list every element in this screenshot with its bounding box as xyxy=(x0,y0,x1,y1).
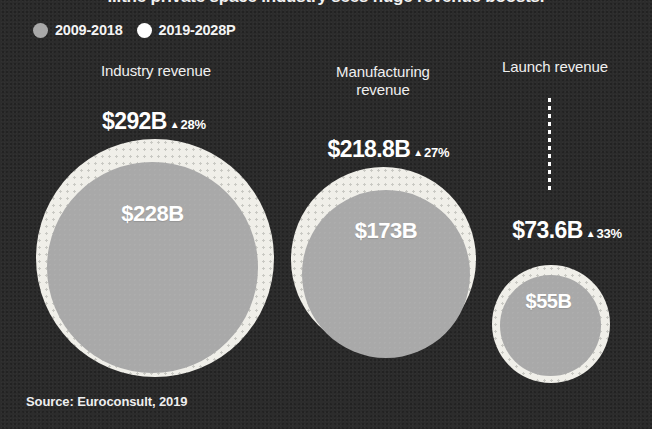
outer-amount: $292B xyxy=(102,108,167,134)
legend-item-2009-2018[interactable]: 2009-2018 xyxy=(33,22,123,38)
inner-circle-industry-revenue xyxy=(47,162,258,373)
source-attribution: Source: Euroconsult, 2019 xyxy=(26,394,188,409)
growth-value: 28% xyxy=(181,117,206,132)
outer-amount: $218.8B xyxy=(328,136,411,162)
dotted-leader-line xyxy=(548,98,551,191)
legend-item-2019-2028p[interactable]: 2019-2028P xyxy=(137,22,236,38)
growth-value: 33% xyxy=(596,226,621,241)
inner-value-manufacturing-revenue: $173B xyxy=(302,218,470,244)
group-title-industry-revenue: Industry revenue xyxy=(66,62,246,80)
inner-circle-manufacturing-revenue xyxy=(302,190,470,358)
white-circle-swatch xyxy=(137,23,152,38)
infographic-canvas: ...the private space industry sees huge … xyxy=(0,0,652,429)
inner-value-launch-revenue: $55B xyxy=(498,290,599,313)
outer-amount: $73.6B xyxy=(512,217,583,243)
group-title-launch-revenue: Launch revenue xyxy=(475,58,635,76)
growth-delta: ▲28% xyxy=(170,117,206,132)
gray-circle-swatch xyxy=(33,23,48,38)
outer-value-launch-revenue: $73.6B▲33% xyxy=(492,217,642,244)
growth-value: 27% xyxy=(424,145,449,160)
legend-label: 2009-2018 xyxy=(55,22,123,38)
triangle-up-icon: ▲ xyxy=(586,228,596,239)
triangle-up-icon: ▲ xyxy=(413,147,423,158)
legend: 2009-2018 2019-2028P xyxy=(33,22,236,38)
outer-value-industry-revenue: $292B▲28% xyxy=(64,108,244,135)
outer-value-manufacturing-revenue: $218.8B▲27% xyxy=(296,136,481,163)
growth-delta: ▲33% xyxy=(586,226,622,241)
inner-value-industry-revenue: $228B xyxy=(47,201,258,227)
growth-delta: ▲27% xyxy=(413,145,449,160)
headline: ...the private space industry sees huge … xyxy=(0,0,652,7)
legend-label: 2019-2028P xyxy=(159,22,236,38)
group-title-manufacturing-revenue: Manufacturing revenue xyxy=(303,63,463,99)
triangle-up-icon: ▲ xyxy=(170,119,180,130)
